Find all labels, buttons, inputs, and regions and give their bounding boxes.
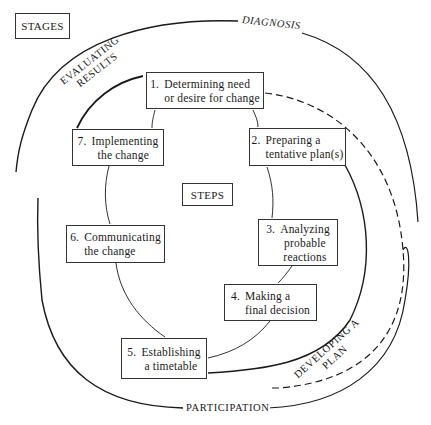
step-text-line: a timetable — [141, 359, 200, 373]
connector-1-7 — [152, 110, 155, 128]
step-number: 6. — [70, 230, 79, 258]
step-text-line: Preparing a — [266, 133, 344, 147]
step-box-7: 7. Implementing the change — [72, 129, 164, 166]
connector-layer — [0, 0, 431, 425]
connector-4-5 — [208, 321, 270, 358]
step-box-3: 3. Analyzing probable reactions — [258, 219, 338, 266]
stages-legend-label: STAGES — [21, 20, 63, 32]
step-number: 1. — [150, 77, 159, 105]
step-number: 5. — [127, 345, 136, 373]
step-box-5: 5. Establishing a timetable — [121, 338, 207, 379]
step-text-line: final decision — [245, 303, 310, 317]
step-text-line: Implementing — [92, 134, 159, 148]
stage-label-participation: PARTICIPATION — [185, 402, 270, 413]
connector-3-4 — [278, 266, 292, 283]
step-text-line: the change — [84, 244, 161, 258]
step-box-2: 2. Preparing a tentative plan(s) — [249, 128, 346, 166]
steps-legend-label: STEPS — [191, 189, 224, 201]
step-text-line: Determining need — [164, 77, 260, 91]
step-number: 7. — [78, 134, 87, 162]
step-text-line: probable — [280, 236, 330, 250]
connector-2-3 — [267, 167, 273, 218]
connector-5-6 — [116, 263, 165, 337]
step-text-line: Communicating — [84, 230, 161, 244]
step-text-line: the change — [92, 148, 159, 162]
steps-legend-box: STEPS — [182, 183, 233, 206]
step-text-line: reactions — [280, 250, 330, 264]
step-number: 3. — [266, 222, 275, 264]
connector-6-7 — [105, 166, 110, 224]
step-box-1: 1. Determining need or desire for change — [146, 72, 264, 109]
step-text-line: Making a — [245, 289, 310, 303]
step-number: 2. — [252, 133, 261, 161]
step-text-line: tentative plan(s) — [266, 147, 344, 161]
stages-legend-box: STAGES — [15, 13, 70, 39]
step-box-6: 6. Communicating the change — [66, 225, 165, 263]
step-number: 4. — [231, 289, 240, 317]
step-box-4: 4. Making a final decision — [224, 284, 317, 321]
step-text-line: Analyzing — [280, 222, 330, 236]
participation-arc — [268, 247, 409, 408]
step-text-line: or desire for change — [164, 91, 260, 105]
connector-1-2 — [253, 110, 258, 127]
change-process-diagram: STAGES STEPS DIAGNOSIS EVALUATING RESULT… — [0, 0, 431, 425]
step-text-line: Establishing — [141, 345, 200, 359]
